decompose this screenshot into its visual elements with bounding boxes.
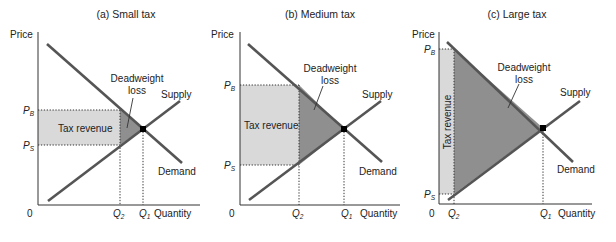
pb-label: PB bbox=[23, 105, 35, 117]
q2-label: Q2 bbox=[448, 208, 460, 220]
quantity-axis-label: Quantity bbox=[558, 208, 595, 219]
dwl-label-line1: Deadweight bbox=[111, 73, 164, 84]
ps-label: PS bbox=[224, 160, 236, 172]
q2-label: Q2 bbox=[113, 208, 125, 220]
price-axis-label: Price bbox=[211, 29, 234, 40]
pb-label: PB bbox=[224, 80, 236, 92]
dwl-label-line2: loss bbox=[321, 75, 339, 86]
supply-label: Supply bbox=[161, 89, 192, 100]
equilibrium-point bbox=[540, 125, 546, 131]
deadweight-loss-area bbox=[120, 110, 143, 145]
origin-label: 0 bbox=[229, 208, 235, 219]
quantity-axis-label: Quantity bbox=[154, 208, 191, 219]
q2-label: Q2 bbox=[292, 208, 304, 220]
q1-label: Q1 bbox=[139, 208, 151, 220]
supply-label: Supply bbox=[362, 89, 393, 100]
quantity-axis-label: Quantity bbox=[360, 208, 397, 219]
equilibrium-point bbox=[140, 126, 146, 132]
ps-label: PS bbox=[424, 189, 436, 201]
panel-medium-tax: (b) Medium tax Price Quantity 0 PB PS Q2… bbox=[211, 8, 400, 220]
equilibrium-point bbox=[341, 126, 347, 132]
pb-label: PB bbox=[424, 44, 436, 56]
price-axis-label: Price bbox=[10, 29, 33, 40]
tax-revenue-label: Tax revenue bbox=[58, 123, 113, 134]
supply-label: Supply bbox=[560, 87, 591, 98]
ps-label: PS bbox=[23, 140, 35, 152]
origin-label: 0 bbox=[27, 208, 33, 219]
tax-deadweight-loss-figure: (a) Small tax Price Quantity 0 PB PS Q2 … bbox=[0, 0, 616, 242]
panel-large-tax: (c) Large tax Price Quantity 0 PB PS Q2 … bbox=[412, 8, 595, 220]
dwl-label-line1: Deadweight bbox=[498, 62, 551, 73]
panel-title: (b) Medium tax bbox=[285, 8, 356, 20]
panel-title: (a) Small tax bbox=[97, 8, 157, 20]
demand-label: Demand bbox=[158, 166, 196, 177]
q1-label: Q1 bbox=[341, 208, 353, 220]
dwl-label-line2: loss bbox=[128, 85, 146, 96]
panel-small-tax: (a) Small tax Price Quantity 0 PB PS Q2 … bbox=[10, 8, 200, 220]
tax-revenue-label: Tax revenue bbox=[442, 94, 453, 149]
price-axis-label: Price bbox=[412, 29, 435, 40]
origin-label: 0 bbox=[429, 208, 435, 219]
dwl-label-line1: Deadweight bbox=[304, 63, 357, 74]
demand-label: Demand bbox=[359, 166, 397, 177]
deadweight-loss-area bbox=[299, 85, 344, 165]
demand-label: Demand bbox=[557, 164, 595, 175]
panel-title: (c) Large tax bbox=[488, 8, 548, 20]
tax-revenue-label: Tax revenue bbox=[244, 120, 299, 131]
dwl-label-line2: loss bbox=[515, 74, 533, 85]
q1-label: Q1 bbox=[540, 208, 552, 220]
